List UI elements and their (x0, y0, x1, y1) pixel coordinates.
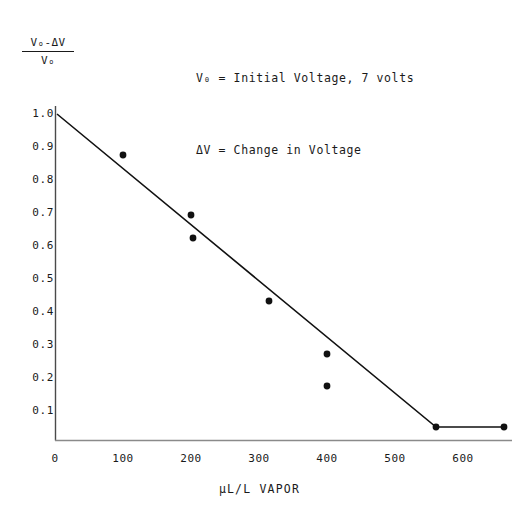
data-point (190, 235, 197, 242)
plot-area (0, 0, 519, 523)
data-point (501, 424, 508, 431)
trend-line (57, 114, 504, 427)
data-point (266, 298, 273, 305)
data-point (120, 152, 127, 159)
data-point (324, 383, 331, 390)
data-point (433, 424, 440, 431)
data-point (324, 351, 331, 358)
data-point (188, 212, 195, 219)
chart-figure: V₀ = Initial Voltage, 7 volts ΔV = Chang… (0, 0, 519, 523)
